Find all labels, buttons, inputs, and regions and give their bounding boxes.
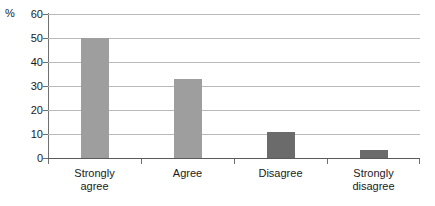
x-category-label-agree: Agree bbox=[141, 167, 234, 180]
x-tick-mark-3 bbox=[327, 159, 328, 164]
y-tick-label-50: 50 bbox=[17, 32, 43, 44]
x-category-label-strongly-agree: Strongly agree bbox=[48, 167, 141, 193]
y-tick-label-60: 60 bbox=[17, 8, 43, 20]
y-tick-label-10: 10 bbox=[17, 128, 43, 140]
bar-strongly-disagree[interactable] bbox=[360, 150, 388, 158]
y-axis-unit-label: % bbox=[5, 7, 15, 19]
x-category-label-line1: Agree bbox=[141, 167, 234, 180]
x-category-label-strongly-disagree: Strongly disagree bbox=[327, 167, 420, 193]
plot-area bbox=[48, 14, 420, 158]
x-category-label-line1: Disagree bbox=[234, 167, 327, 180]
bar-disagree[interactable] bbox=[267, 132, 295, 158]
bar-agree[interactable] bbox=[174, 79, 202, 158]
bar-strongly-agree[interactable] bbox=[81, 38, 109, 158]
x-category-label-line2: agree bbox=[48, 180, 141, 193]
x-tick-mark-0 bbox=[48, 159, 49, 164]
x-tick-mark-1 bbox=[141, 159, 142, 164]
x-tick-mark-4 bbox=[419, 159, 420, 164]
y-tick-label-0: 0 bbox=[17, 152, 43, 164]
y-tick-label-30: 30 bbox=[17, 80, 43, 92]
x-category-label-line1: Strongly bbox=[327, 167, 420, 180]
bar-chart: % 60 50 40 30 20 10 0 Strongly agree Agr… bbox=[0, 0, 435, 206]
x-tick-mark-2 bbox=[234, 159, 235, 164]
x-category-label-disagree: Disagree bbox=[234, 167, 327, 180]
y-tick-label-20: 20 bbox=[17, 104, 43, 116]
x-category-label-line2: disagree bbox=[327, 180, 420, 193]
gridline-60 bbox=[48, 14, 420, 15]
y-tick-label-40: 40 bbox=[17, 56, 43, 68]
x-category-label-line1: Strongly bbox=[48, 167, 141, 180]
